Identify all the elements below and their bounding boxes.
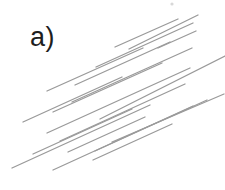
line-segment xyxy=(93,124,172,160)
line-segment xyxy=(112,94,224,142)
line-segment xyxy=(33,109,132,154)
line-segment xyxy=(158,31,196,48)
panel-label: a) xyxy=(30,24,55,51)
line-segment xyxy=(75,42,170,85)
scan-speck xyxy=(170,2,173,5)
line-segment xyxy=(47,68,190,133)
line-segment xyxy=(96,23,193,67)
line-segment xyxy=(12,105,150,168)
line-segment xyxy=(47,48,143,91)
line-segment xyxy=(68,117,145,152)
figure-panel: a) xyxy=(0,0,225,190)
line-segment xyxy=(60,84,185,141)
line-segment xyxy=(129,15,198,49)
